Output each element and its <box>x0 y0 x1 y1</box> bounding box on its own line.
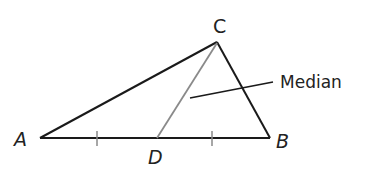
median-label: Median <box>280 72 342 92</box>
side-cb <box>217 42 270 138</box>
point-label-d: D <box>148 146 163 168</box>
vertex-label-b: B <box>276 130 289 152</box>
median-leader-line <box>190 82 273 98</box>
triangle-diagram: A B C D Median <box>0 0 369 172</box>
vertex-label-c: C <box>213 15 226 37</box>
vertex-label-a: A <box>12 128 27 150</box>
side-ac <box>40 42 217 138</box>
